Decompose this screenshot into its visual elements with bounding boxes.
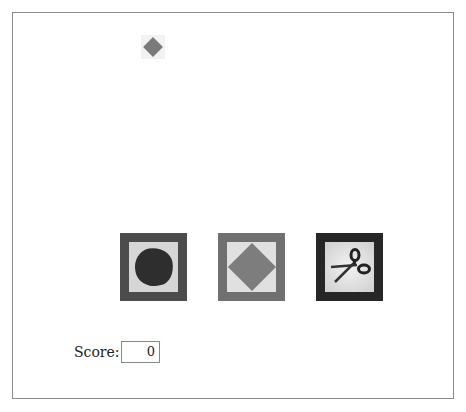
- game-stage: [12, 12, 454, 399]
- rock-card-face: [129, 242, 178, 292]
- score-label: Score:: [74, 344, 120, 360]
- scissors-choice-button[interactable]: [316, 233, 383, 301]
- rock-icon: [132, 245, 176, 289]
- score-value: 0: [121, 341, 160, 363]
- scissors-card-face: [325, 242, 374, 292]
- falling-paper-item: [141, 35, 165, 59]
- diamond-icon: [228, 243, 276, 291]
- diamond-icon: [143, 37, 163, 57]
- paper-choice-button[interactable]: [218, 233, 285, 301]
- paper-card-face: [227, 242, 276, 292]
- scissors-icon: [325, 242, 374, 292]
- rock-choice-button[interactable]: [120, 233, 187, 301]
